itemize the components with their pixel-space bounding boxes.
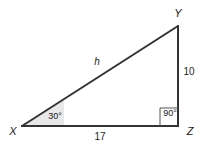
vertex-label-y: Y xyxy=(174,8,181,19)
angle-label-x: 30° xyxy=(48,112,62,121)
angle-label-z: 90° xyxy=(163,109,177,118)
side-label-hypotenuse: h xyxy=(94,57,100,67)
side-label-base: 17 xyxy=(94,132,105,142)
vertex-label-x: X xyxy=(9,126,16,137)
triangle-figure: X Y Z h 10 17 30° 90° xyxy=(0,0,205,151)
vertex-label-z: Z xyxy=(187,126,194,137)
triangle-drawing xyxy=(0,0,205,151)
side-label-vertical: 10 xyxy=(183,67,194,77)
hypotenuse-line-xy xyxy=(22,26,178,126)
